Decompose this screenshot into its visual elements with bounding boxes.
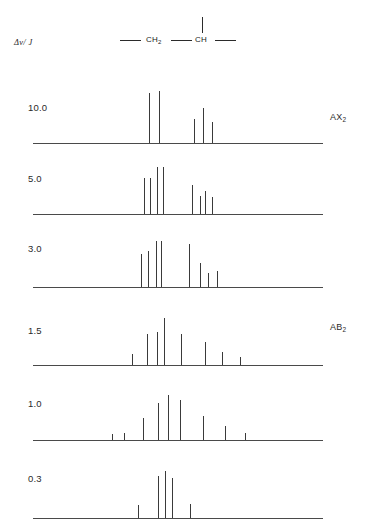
spectrum-ratio-label: 0.3 xyxy=(28,473,42,484)
spectrum-peak xyxy=(165,471,166,518)
spectrum-peak xyxy=(172,478,173,518)
spectrum-peak xyxy=(158,476,159,518)
nmr-spectra-figure: Δν/ J CH2 CH AX2 AB2 10.05.03.01.51.00.3 xyxy=(0,0,368,531)
spectrum-baseline xyxy=(33,518,323,519)
spectrum-peak xyxy=(190,504,191,518)
spectrum-trace: 0.3 xyxy=(0,0,368,531)
spectrum-peak xyxy=(138,505,139,518)
